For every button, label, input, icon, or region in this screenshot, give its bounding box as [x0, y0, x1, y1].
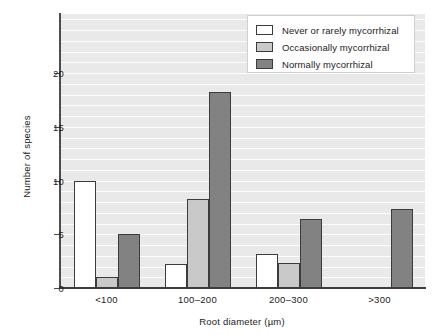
y-axis-line [59, 13, 61, 289]
y-axis-tick-label: 20 [53, 68, 64, 79]
gridline [61, 84, 425, 85]
y-axis-tick-label: 0 [59, 283, 64, 294]
bar [187, 199, 209, 288]
legend-swatch-occasionally [256, 42, 273, 52]
x-axis-tick-label: 100–200 [178, 294, 217, 305]
gridline [61, 95, 425, 96]
bar [300, 219, 322, 288]
gridline [61, 256, 425, 257]
gridline [61, 159, 425, 160]
y-axis-title: Number of species [21, 102, 32, 212]
y-axis-tick-label: 10 [53, 175, 64, 186]
gridline [61, 191, 425, 192]
bar [278, 263, 300, 288]
bar [391, 209, 413, 289]
y-axis-tick-label: 15 [53, 121, 64, 132]
gridline [61, 224, 425, 225]
gridline [61, 116, 425, 117]
legend-item: Never or rarely mycorrhizal [256, 22, 414, 38]
bar-chart-figure: Number of species Root diameter (µm) Nev… [0, 0, 446, 335]
gridline [61, 105, 425, 106]
x-axis-tick-label: >300 [368, 294, 391, 305]
x-axis-tick-label: <100 [95, 294, 118, 305]
legend-item: Normally mycorrhizal [256, 56, 414, 72]
gridline [61, 181, 425, 182]
legend-swatch-normally [256, 59, 273, 69]
bar [256, 254, 278, 288]
bar [209, 92, 231, 288]
y-axis-tick-label: 5 [59, 229, 64, 240]
gridline [61, 245, 425, 246]
bar [74, 181, 96, 288]
gridline [61, 170, 425, 171]
gridline [61, 213, 425, 214]
legend: Never or rarely mycorrhizal Occasionally… [247, 15, 415, 73]
bar [96, 277, 118, 288]
gridline [61, 127, 425, 128]
gridline [61, 73, 425, 74]
legend-swatch-never-or-rarely [256, 25, 273, 35]
legend-label: Normally mycorrhizal [282, 59, 373, 70]
gridline [61, 267, 425, 268]
gridline [61, 234, 425, 235]
bar [165, 264, 187, 288]
legend-label: Never or rarely mycorrhizal [282, 25, 399, 36]
gridline [61, 148, 425, 149]
gridline [61, 202, 425, 203]
x-axis-title: Root diameter (µm) [0, 316, 446, 327]
x-axis-tick-label: 200–300 [269, 294, 308, 305]
bar [118, 234, 140, 288]
legend-label: Occasionally mycorrhizal [282, 42, 389, 53]
legend-item: Occasionally mycorrhizal [256, 39, 414, 55]
gridline [61, 138, 425, 139]
